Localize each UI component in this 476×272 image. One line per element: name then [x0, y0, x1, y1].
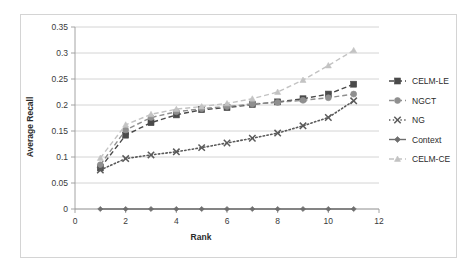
- legend-label: NG: [412, 115, 425, 125]
- y-tick-label: 0.2: [56, 100, 68, 110]
- data-point: [326, 206, 331, 211]
- legend-label: CELM-CE: [412, 154, 451, 164]
- average-recall-line-chart: 00.050.10.150.20.250.30.35 024681012 Ave…: [21, 15, 456, 257]
- legend-item-ng[interactable]: NG: [389, 115, 425, 125]
- data-point: [325, 95, 331, 101]
- x-tick-label: 2: [123, 216, 128, 226]
- data-point: [325, 62, 331, 67]
- y-tick-label: 0.35: [51, 22, 68, 32]
- x-tick-label: 6: [225, 216, 230, 226]
- data-point: [174, 206, 179, 211]
- x-tick-label: 10: [324, 216, 334, 226]
- legend-item-celm-ce[interactable]: CELM-CE: [389, 154, 451, 164]
- legend-item-context[interactable]: Context: [389, 135, 442, 145]
- chart-frame: 00.050.10.150.20.250.30.35 024681012 Ave…: [20, 14, 457, 258]
- series-line: [100, 101, 353, 170]
- legend-marker: [395, 137, 401, 143]
- x-tick-label: 4: [174, 216, 179, 226]
- legend-marker: [395, 98, 401, 104]
- data-point: [123, 127, 129, 133]
- data-point: [148, 111, 154, 116]
- data-point: [351, 91, 357, 97]
- legend-item-celm-le[interactable]: CELM-LE: [389, 76, 449, 86]
- data-point: [199, 206, 204, 211]
- data-point: [300, 206, 305, 211]
- data-point: [148, 206, 153, 211]
- data-point: [351, 81, 357, 87]
- data-point: [123, 206, 128, 211]
- chart-legend: CELM-LENGCTNGContextCELM-CE: [389, 76, 451, 164]
- legend-label: CELM-LE: [412, 76, 449, 86]
- data-point: [351, 47, 357, 52]
- x-tick-labels: 024681012: [73, 216, 384, 226]
- data-point: [300, 77, 306, 82]
- y-tick-label: 0.3: [56, 48, 68, 58]
- y-tick-label: 0: [63, 204, 68, 214]
- series-context: [98, 206, 357, 211]
- y-tick-label: 0.15: [51, 126, 68, 136]
- x-tick-label: 12: [374, 216, 384, 226]
- legend-label: NGCT: [412, 96, 436, 106]
- legend-label: Context: [412, 135, 442, 145]
- y-tick-label: 0.1: [56, 152, 68, 162]
- x-tick-label: 0: [73, 216, 78, 226]
- data-point: [224, 206, 229, 211]
- y-tick-label: 0.05: [51, 178, 68, 188]
- y-tick-label: 0.25: [51, 74, 68, 84]
- series-line: [100, 84, 353, 168]
- legend-marker: [395, 78, 401, 84]
- gridlines: [75, 27, 379, 209]
- data-point: [351, 206, 356, 211]
- data-point: [350, 98, 356, 104]
- x-axis-title: Rank: [191, 232, 212, 242]
- y-tick-labels: 00.050.10.150.20.250.30.35: [51, 22, 68, 214]
- y-axis-title: Average Recall: [25, 97, 35, 158]
- axes: [75, 27, 379, 209]
- data-point: [275, 99, 281, 105]
- data-point: [300, 97, 306, 103]
- x-tick-label: 8: [275, 216, 280, 226]
- data-series-group: [97, 47, 357, 211]
- legend-marker: [394, 117, 400, 123]
- data-point: [250, 206, 255, 211]
- y-tick-marks: [71, 27, 75, 209]
- data-point: [98, 206, 103, 211]
- data-point: [275, 206, 280, 211]
- legend-item-ngct[interactable]: NGCT: [389, 96, 436, 106]
- data-point: [249, 101, 255, 107]
